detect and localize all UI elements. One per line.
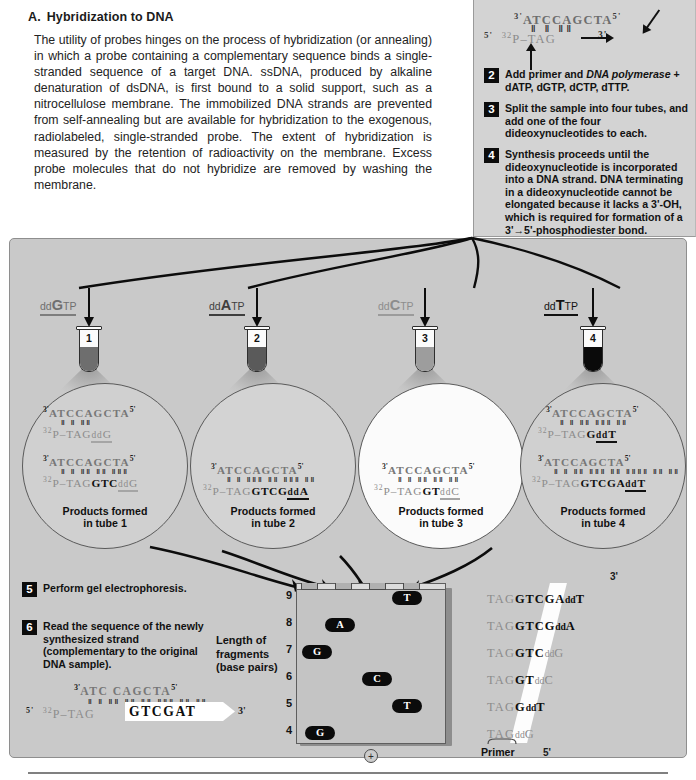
ladder-row-4-dd: dd [535,675,545,686]
ladder-row-2-base: A [566,619,575,633]
ddgtp-label: ddGTP [40,297,76,317]
gel-tick-7: 7 [278,643,292,655]
gel-band-G-4[interactable]: G [305,726,335,740]
product-4b-template-seq: ATCCAGCTA [544,456,625,468]
gel-well-lane-4[interactable] [403,583,420,590]
gel-slab[interactable] [296,589,446,744]
gel-band-T-9[interactable]: T [392,591,422,605]
ladder-row-2-synth: GTCG [515,619,555,633]
ladder-5-prime-label: 5' [543,747,551,758]
ladder-row-1-term: ddT [565,592,584,606]
ladder-row-3-primer: TAG [487,646,515,660]
step-6-text: Read the sequence of the newly synthesiz… [43,620,222,670]
gel-band-T-5[interactable]: T [392,699,422,713]
ddatp-underline [209,314,245,316]
step-5: 5 Perform gel electrophoresis. [22,582,212,597]
step-5-text: Perform gel electrophoresis. [43,582,187,595]
product-1b-dd: dd [118,479,129,489]
bubble-2-caption-line2: in tube 2 [190,517,356,529]
tube-1-number: 1 [79,332,99,344]
bubble-2-caption: Products formed in tube 2 [190,505,356,530]
bubble-4-caption: Products formed in tube 4 [520,505,686,530]
ladder-3-prime-label: 3' [610,571,618,582]
ladder-row-3-synth: GTC [515,646,545,660]
product-1a-primer-line: 32P–TAGddG [43,426,136,440]
gel-band-C-6[interactable]: C [362,672,392,686]
product-4b-primer: P–TAG [541,477,580,489]
step-2: 2 Add primer and DNA polymerase + dATP, … [484,68,692,93]
ddatp-tp: TP [231,300,244,312]
product-2a: 3'ATCCAGCTA5' ‖ ‖ ‖‖‖ ‖‖ ‖‖‖ ‖‖ 32P–TAGG… [203,462,316,497]
ladder-row-4-base: C [544,673,552,687]
step-3-number: 3 [484,102,499,117]
ladder-row-2: TAGGTCGddA [487,619,575,634]
gel-axis-title-line2: fragments [216,648,286,662]
ladder-row-1-base: T [576,592,584,606]
primer-pointer-arrow-icon [530,50,532,70]
gel-well-lane-3[interactable] [369,583,386,590]
product-2a-primer: P–TAG [212,485,251,497]
product-1a: 3'ATCCAGCTA5' ‖ ‖ ‖‖ 32P–TAGddG [43,405,136,440]
product-1b-synth: GTC [91,477,117,489]
ladder-row-5-term: ddT [526,700,545,714]
ladder-row-1: TAGGTCGAddT [487,592,584,607]
section-a-heading: A.Hybridization to DNA [28,10,174,24]
readout-isotope: 32 [43,706,53,715]
step-3: 3 Split the sample into four tubes, and … [484,102,692,140]
tube-2[interactable]: 2 [247,326,267,372]
tube-4-liquid [584,347,602,371]
bubble-1-caption: Products formed in tube 1 [22,505,188,530]
step-4-text: Synthesis proceeds until the dideoxynucl… [505,148,692,236]
ladder-row-3-base: G [554,646,563,660]
product-2a-template: 3'ATCCAGCTA5' [211,462,316,476]
ladder-row-6-dd: dd [515,729,525,740]
step-6-number: 6 [22,620,37,635]
product-3a: 3'ATCCAGCTA5' ‖ ‖ ‖‖ ‖‖ ‖‖ 32P–TAGGTddC [374,462,475,497]
ddctp-base: C [390,297,400,313]
tube-4[interactable]: 4 [583,326,603,372]
product-2a-synth: GTCG [251,485,287,497]
gel-well-lane-2[interactable] [335,583,352,590]
product-4b-primer-line: 32P–TAGGTCGAddT [532,475,680,489]
tube-1[interactable]: 1 [79,326,99,372]
bubble-3-caption-line1: Products formed [358,505,524,517]
gel-band-G-7[interactable]: G [302,645,332,659]
product-2a-bonds: ‖ ‖ ‖‖‖ ‖‖ ‖‖‖ ‖‖ [227,477,316,483]
product-3a-primer-line: 32P–TAGGTddC [374,483,475,497]
tube-3[interactable]: 3 [415,326,435,372]
section-a-letter: A. [28,10,41,24]
gel-well-lane-1[interactable] [301,583,318,590]
tube-2-liquid [248,347,266,371]
arrow-to-tube-4-icon [592,288,594,318]
product-1b-primer: P–TAG [52,477,91,489]
product-3a-terminator: ddC [440,485,460,500]
product-1a-isotope: 32 [43,426,52,435]
product-2a-base: A [300,485,309,497]
ddttp-tp: TP [565,300,578,312]
readout-sequence-arrow: GTCGAT [125,702,235,721]
phosphate-isotope-label: 32 [502,30,513,40]
product-3a-template-seq: ATCCAGCTA [388,464,469,476]
bubble-2-caption-line1: Products formed [190,505,356,517]
gel-band-A-8[interactable]: A [325,618,355,632]
ladder-row-6: TAGddG [487,727,534,742]
step-5-number: 5 [22,582,37,597]
arrow-to-tube-1-icon [88,288,90,318]
step-2-text-italic: DNA polymerase [586,68,670,80]
product-2a-terminator: ddA [287,485,308,500]
ddttp-underline [544,314,578,316]
bubble-3-caption: Products formed in tube 3 [358,505,524,530]
step-4: 4 Synthesis proceeds until the dideoxynu… [484,148,692,236]
readout-primer: P–TAG [53,707,95,721]
ladder-row-3-dd: dd [545,648,555,659]
readout-sequence: GTCGAT [129,704,197,720]
ddttp-dd: dd [544,300,556,312]
step-4-number: 4 [484,148,499,163]
ladder-row-5-synth: G [515,700,526,714]
product-4a-synth: G [586,428,595,440]
product-3a-isotope: 32 [374,483,383,492]
ladder-row-2-dd: dd [555,621,566,632]
product-4b: 3'ATCCAGCTA5' ‖ ‖ ‖‖ ‖‖‖ ‖‖ ‖‖‖‖ ‖‖ ‖‖ 3… [532,454,680,489]
bubble-3-caption-line2: in tube 3 [358,517,524,529]
product-4b-synth: GTCGA [580,477,625,489]
